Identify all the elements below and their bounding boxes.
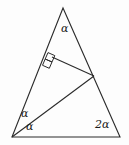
geometry-figure: α α α 2α	[0, 0, 129, 145]
altitude-line	[52, 57, 94, 76]
angle-label-base-left-lower: α	[26, 121, 33, 132]
angle-label-base-right: 2α	[95, 119, 109, 130]
angle-label-base-left-upper: α	[21, 108, 28, 119]
angle-label-apex: α	[61, 23, 68, 34]
